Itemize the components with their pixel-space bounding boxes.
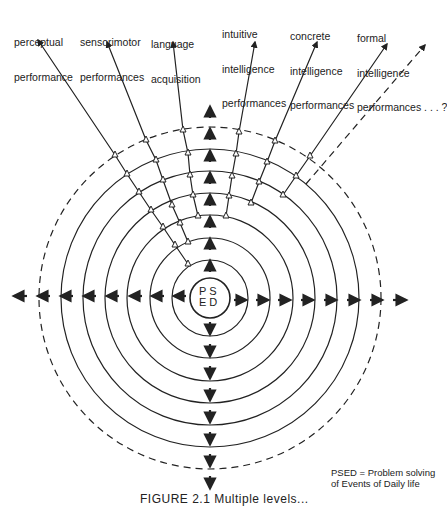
label-sensorimotor-performances: sensorimotor performances <box>80 14 144 95</box>
label-line: perceptual <box>14 37 73 49</box>
label-line: performances . . . ? <box>357 102 447 114</box>
label-intuitive-intelligence: intuitive intelligence performances <box>222 6 286 121</box>
psed-row-2: ED <box>199 297 220 308</box>
label-line: performances <box>222 98 286 110</box>
label-line: language <box>151 39 201 51</box>
label-line: formal <box>357 33 447 45</box>
label-line: sensorimotor <box>80 37 144 49</box>
psed-center-label: PS ED <box>199 286 220 308</box>
figure-caption: FIGURE 2.1 Multiple levels... <box>140 492 309 506</box>
label-formal-intelligence: formal intelligence performances . . . ? <box>357 10 447 125</box>
label-line: performances <box>80 72 144 84</box>
label-line: intuitive <box>222 29 286 41</box>
label-language-acquisition: language acquisition <box>151 16 201 97</box>
psed-legend: PSED = Problem solving of Events of Dail… <box>331 467 435 489</box>
label-line: intelligence <box>290 66 354 78</box>
label-line: intelligence <box>357 68 447 80</box>
legend-line-2: of Events of Daily life <box>331 478 435 489</box>
label-line: performances <box>290 100 354 112</box>
legend-line-1: PSED = Problem solving <box>331 467 435 478</box>
label-concrete-intelligence: concrete intelligence performances <box>290 8 354 123</box>
label-line: concrete <box>290 31 354 43</box>
label-line: acquisition <box>151 74 201 86</box>
label-line: performance <box>14 72 73 84</box>
label-perceptual-performance: perceptual performance <box>14 14 73 95</box>
label-line: intelligence <box>222 64 286 76</box>
